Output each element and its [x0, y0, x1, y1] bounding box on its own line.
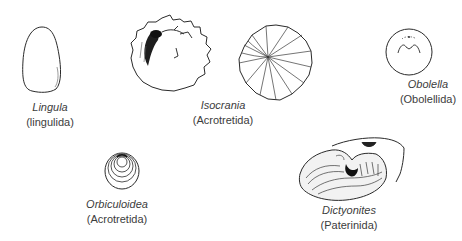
lingula-caption: Lingula (lingulida)	[26, 100, 74, 130]
obolella-shell-drawing	[384, 27, 434, 77]
orbiculoidea-order-label: (Acrotretida)	[86, 212, 148, 227]
dictyonites-genus-label: Dictyonites	[321, 203, 378, 218]
isocrania-valve-drawing	[128, 12, 214, 94]
orbiculoidea-shell-drawing	[103, 151, 141, 191]
isocrania-ribbed-valve-drawing	[236, 23, 316, 103]
brachiopod-figure-plate: Lingula (lingulida) Isocrania	[0, 0, 462, 241]
obolella-order-label: (Obolellida)	[400, 92, 456, 107]
lingula-shell-drawing	[20, 25, 64, 95]
dictyonites-shell-drawing	[296, 134, 408, 202]
isocrania-order-label: (Acrotretida)	[193, 113, 254, 128]
lingula-genus-label: Lingula	[26, 100, 74, 115]
dictyonites-caption: Dictyonites (Paterinida)	[321, 203, 378, 233]
orbiculoidea-genus-label: Orbiculoidea	[86, 197, 148, 212]
dictyonites-order-label: (Paterinida)	[321, 218, 378, 233]
isocrania-genus-label: Isocrania	[193, 98, 254, 113]
isocrania-caption: Isocrania (Acrotretida)	[193, 98, 254, 128]
orbiculoidea-caption: Orbiculoidea (Acrotretida)	[86, 197, 148, 227]
obolella-genus-label: Obolella	[400, 77, 456, 92]
lingula-order-label: (lingulida)	[26, 115, 74, 130]
obolella-caption: Obolella (Obolellida)	[400, 77, 456, 107]
